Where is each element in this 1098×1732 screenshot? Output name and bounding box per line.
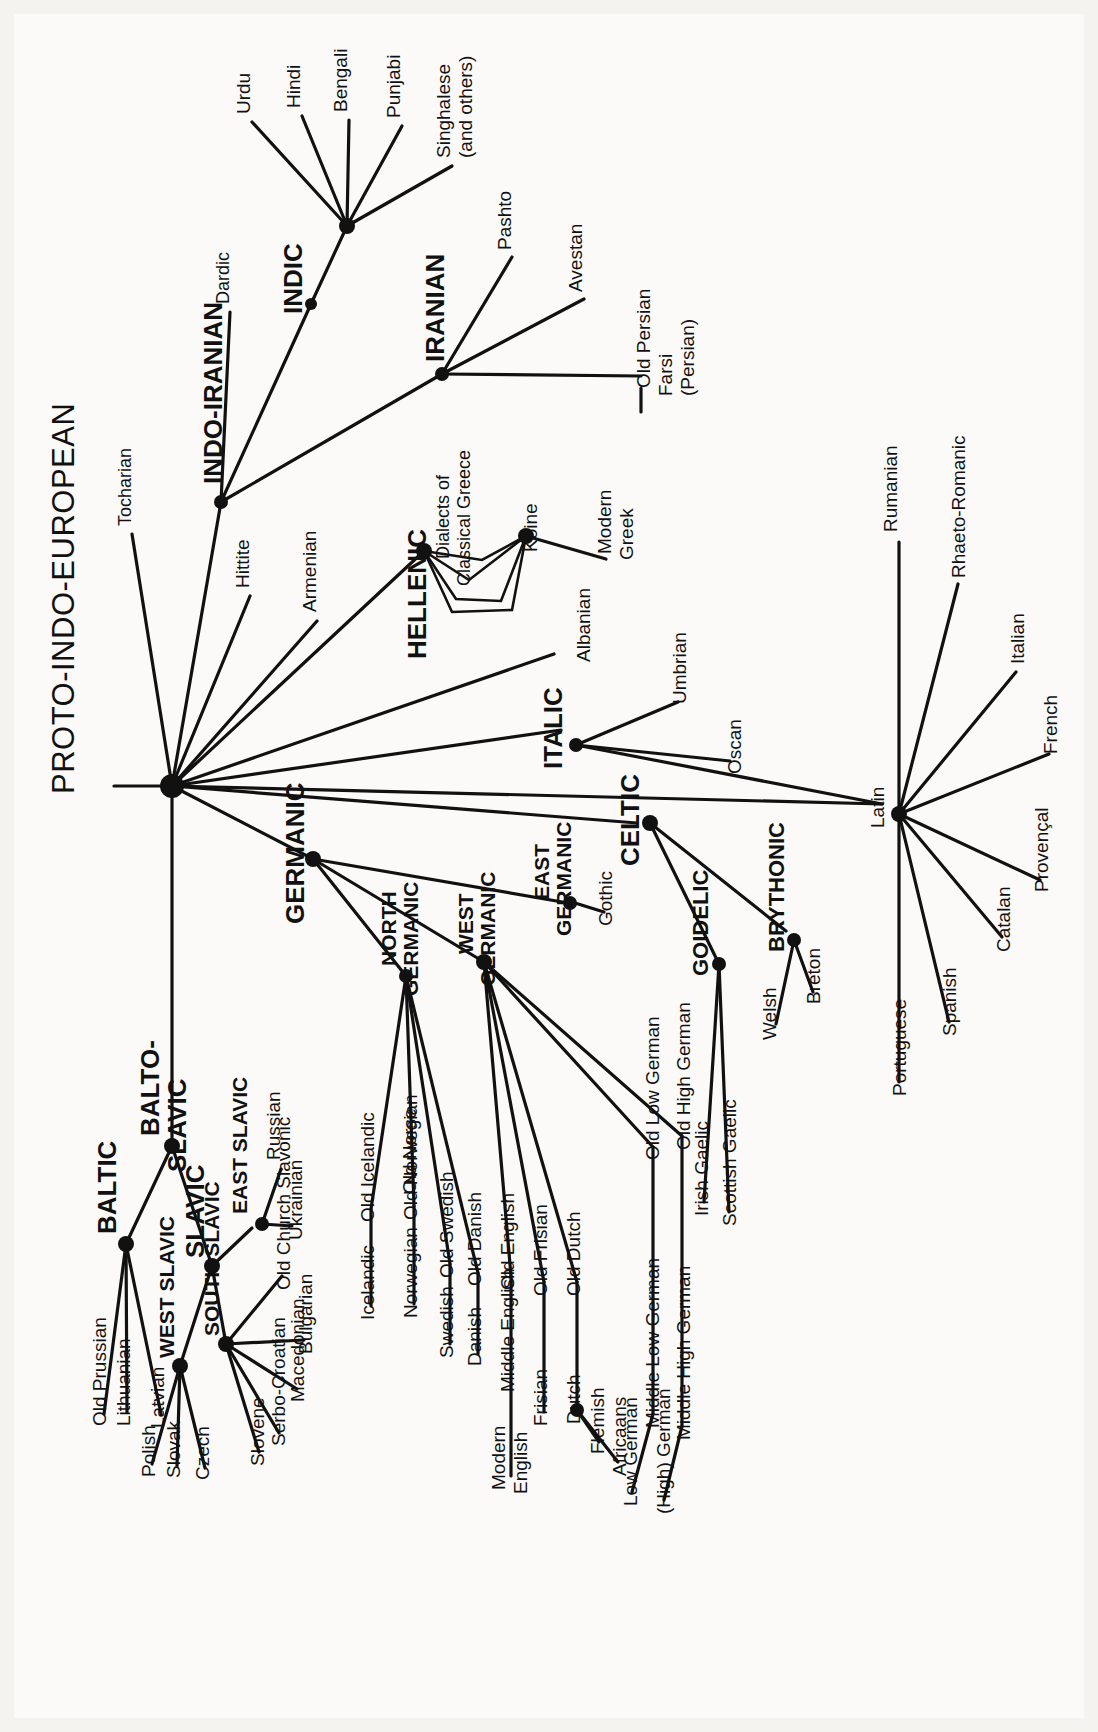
label-macedonian: Macedonian	[287, 1298, 308, 1402]
edge-root-tocharian	[132, 534, 172, 786]
node-indo-iranian	[214, 495, 228, 509]
edge-ii-indic	[221, 304, 311, 502]
label-french: French	[1040, 695, 1061, 754]
label-lithuanian: Lithuanian	[113, 1338, 134, 1426]
label-polish: Polish	[138, 1425, 159, 1477]
label-singhalese: Singhalese	[433, 64, 454, 158]
label-east-germanic-2: GERMANIC	[552, 822, 575, 936]
label-middle-high-german: Middle High German	[673, 1266, 694, 1440]
label-indic: INDIC	[278, 243, 308, 314]
label-slovene: Slovene	[247, 1397, 268, 1466]
node-east-slavic	[255, 1217, 269, 1231]
edge-root-italic	[172, 730, 561, 786]
label-farsi-persian: (Persian)	[677, 319, 698, 396]
label-west-germanic-1: WEST	[454, 893, 477, 954]
label-baltic: BALTIC	[92, 1140, 122, 1234]
label-high-german: (High) German	[653, 1388, 674, 1514]
label-icelandic: Icelandic	[357, 1245, 378, 1320]
label-catalan: Catalan	[993, 887, 1014, 953]
node-west-slavic	[172, 1358, 188, 1374]
label-rhaeto-romanic: Rhaeto-Romanic	[948, 435, 969, 578]
label-gothic: Gothic	[595, 871, 616, 926]
edge-latin-french	[899, 754, 1049, 814]
label-old-high-german: Old High German	[673, 1002, 694, 1150]
edge-sanscrit-urdu	[252, 122, 347, 226]
edge-group-indic	[311, 226, 347, 304]
label-scottish-gaelic: Scottish Gaelic	[719, 1099, 740, 1226]
edge-sanscrit-hindi	[302, 116, 347, 226]
label-old-prussian: Old Prussian	[89, 1317, 110, 1426]
label-hindi: Hindi	[283, 65, 304, 108]
label-danish: Danish	[464, 1307, 485, 1366]
label-italic: ITALIC	[538, 687, 568, 769]
label-north-germanic-2: GERMANIC	[399, 882, 422, 996]
edge-latin-provencal	[899, 814, 1040, 880]
label-breton: Breton	[803, 948, 824, 1004]
label-umbrian: Umbrian	[669, 632, 690, 704]
label-irish-gaelic: Irish Gaelic	[691, 1121, 712, 1216]
label-spanish: Spanish	[939, 967, 960, 1036]
label-celtic: CELTIC	[615, 774, 645, 866]
label-old-icelandic: Old Icelandic	[357, 1112, 378, 1222]
label-swedish: Swedish	[436, 1286, 457, 1358]
label-oscan: Oscan	[724, 719, 745, 774]
label-dialects-line1: Dialects of	[433, 474, 453, 559]
label-balto-slavic-1: BALTO-	[135, 1040, 165, 1136]
label-punjabi: Punjabi	[383, 55, 404, 118]
edge-sanscrit-bengali	[347, 120, 349, 226]
label-old-frisian: Old Frisian	[530, 1204, 551, 1296]
node-brythonic	[787, 933, 801, 947]
label-goidelic: GOIDELIC	[688, 870, 713, 976]
edge-indic-sanscrit	[311, 226, 347, 304]
label-west-germanic-2: GERMANIC	[476, 872, 499, 986]
label-modern-greek-2: Greek	[616, 508, 637, 560]
label-old-danish: Old Danish	[464, 1192, 485, 1286]
edge-group-indo-iranian	[221, 304, 442, 502]
label-old-persian: Old Persian	[633, 289, 654, 388]
indo-european-tree-diagram: PROTO-INDO-EUROPEAN Tocharian INDO-IRANI…	[14, 14, 1084, 1718]
label-czech: Czech	[192, 1426, 213, 1480]
label-old-church-slavonic: Old Church Slavonic	[273, 1117, 294, 1290]
label-avestan: Avestan	[565, 224, 586, 292]
label-armenian: Armenian	[299, 531, 320, 612]
label-germanic: GERMANIC	[280, 782, 310, 924]
diagram-paper: PROTO-INDO-EUROPEAN Tocharian INDO-IRANI…	[14, 14, 1084, 1718]
label-dutch: Dutch	[563, 1374, 584, 1424]
edge-group-north-germanic	[371, 976, 478, 1354]
node-sanscrit	[339, 218, 355, 234]
label-provencal: Provençal	[1031, 808, 1052, 893]
label-middle-english: Middle English	[497, 1268, 518, 1392]
label-serbo-croatian: Serbo-Croatian	[268, 1317, 289, 1446]
label-latvian: Latvian	[147, 1367, 168, 1428]
label-frisian: Frisian	[530, 1369, 551, 1426]
label-west-slavic: WEST SLAVIC	[155, 1216, 178, 1358]
label-low-german: Low German	[620, 1397, 641, 1506]
label-south-slavic: SOUTH SLAVIC	[200, 1181, 223, 1336]
edge-root-indo-iranian	[172, 502, 221, 786]
node-iranian	[435, 367, 449, 381]
label-welsh: Welsh	[759, 988, 780, 1040]
label-bengali: Bengali	[330, 49, 351, 112]
edge-root-hellenic	[172, 551, 424, 786]
label-old-swedish: Old Swedish	[436, 1171, 457, 1278]
label-old-norwegian: Old Norwegian	[400, 1094, 421, 1220]
page-title: PROTO-INDO-EUROPEAN	[46, 403, 81, 794]
node-goidelic	[712, 957, 726, 971]
label-balto-slavic-2: SLAVIC	[162, 1078, 192, 1172]
label-portuguese: Portuguese	[889, 999, 910, 1096]
label-dialects-line2: Classical Greece	[454, 450, 474, 586]
label-urdu: Urdu	[233, 73, 254, 114]
label-old-low-german: Old Low German	[642, 1016, 663, 1160]
label-east-slavic: EAST SLAVIC	[228, 1077, 251, 1214]
label-italian: Italian	[1007, 613, 1028, 664]
label-slovak: Slovak	[163, 1420, 184, 1478]
label-rumanian: Rumanian	[880, 445, 901, 532]
edge-root-hittite	[172, 596, 250, 786]
label-old-dutch: Old Dutch	[563, 1212, 584, 1296]
label-indo-iranian: INDO-IRANIAN	[198, 302, 228, 484]
page-canvas: PROTO-INDO-EUROPEAN Tocharian INDO-IRANI…	[0, 0, 1098, 1732]
node-latin	[891, 806, 907, 822]
label-flemish: Flemish	[587, 1387, 608, 1454]
edge-group-sanscrit	[252, 116, 452, 226]
node-proto-indo-european	[160, 774, 184, 798]
